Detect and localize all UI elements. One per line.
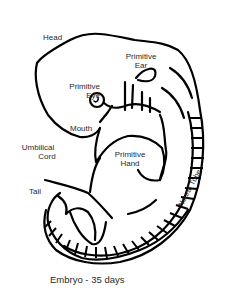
label-primitive-ear-line1: Primitive [118, 52, 164, 61]
ear-outline [136, 69, 155, 82]
label-mouth: Mouth [70, 124, 92, 133]
label-umbilical-cord: Umbilical Cord [16, 143, 60, 161]
label-umbilical-cord-line1: Umbilical [16, 143, 60, 152]
label-primitive-ear-line2: Ear [118, 61, 164, 70]
label-tail: Tail [29, 187, 41, 196]
umbilical-cord [45, 180, 112, 218]
label-umbilical-cord-line2: Cord [16, 152, 60, 161]
label-primitive-eye: Primitive Eye [56, 82, 100, 100]
label-primitive-eye-line1: Primitive [56, 82, 100, 91]
label-primitive-ear: Primitive Ear [118, 52, 164, 70]
figure-caption: Embryo - 35 days [50, 274, 124, 285]
label-head: Head [43, 33, 62, 42]
label-primitive-hand-line1: Primitive [108, 150, 152, 159]
label-primitive-eye-line2: Eye [56, 91, 100, 100]
label-primitive-hand-line2: Hand [108, 159, 152, 168]
label-primitive-hand: Primitive Hand [108, 150, 152, 168]
